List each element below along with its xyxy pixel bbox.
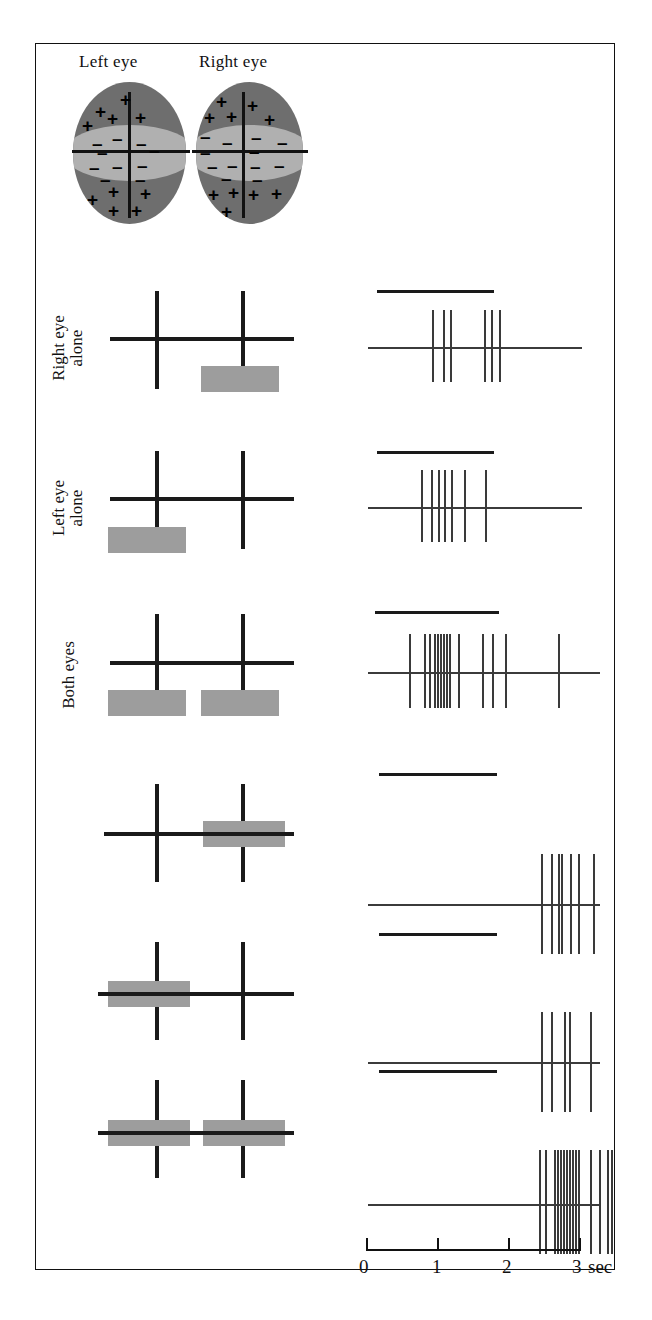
crosshair-horizontal: [110, 661, 294, 665]
spike-mark: [431, 470, 433, 542]
spike-mark: [437, 634, 439, 708]
spike-mark: [424, 634, 426, 708]
stimulus-bar-left: [108, 527, 186, 553]
axis-tick-1: [437, 1238, 439, 1251]
stimulus-duration-bar: [377, 290, 494, 293]
spike-mark: [575, 1150, 577, 1254]
spike-mark: [558, 854, 560, 954]
plus-icon: +: [247, 96, 258, 115]
minus-icon: –: [274, 156, 285, 175]
stimulus-duration-bar: [379, 1070, 497, 1073]
spike-mark: [491, 310, 493, 382]
axis-label-2: 2: [502, 1256, 512, 1278]
axis-tick-3: [579, 1238, 581, 1251]
spike-baseline: [368, 507, 582, 509]
spike-baseline: [368, 347, 582, 349]
spike-mark: [545, 1150, 547, 1254]
plus-icon: +: [271, 184, 282, 203]
row-label-right-eye-alone: Right eye alone: [50, 294, 87, 402]
minus-icon: –: [222, 133, 233, 152]
spike-mark: [558, 634, 560, 708]
spike-mark: [539, 1150, 541, 1254]
minus-icon: –: [149, 141, 160, 160]
figure-container: Left eye Right eye + + + + + + + + + + –…: [0, 0, 652, 1320]
stimulus-duration-bar: [375, 611, 499, 614]
plus-icon: +: [95, 102, 106, 121]
minus-icon: –: [207, 157, 218, 176]
spike-mark: [541, 1012, 543, 1112]
minus-icon: –: [221, 169, 232, 188]
spike-mark: [444, 470, 446, 542]
row-label-line1: Right eye: [50, 294, 68, 402]
figure-frame: Left eye Right eye + + + + + + + + + + –…: [35, 43, 615, 1270]
spike-baseline: [368, 904, 600, 906]
spike-mark: [443, 310, 445, 382]
spike-mark: [590, 1150, 592, 1254]
spike-mark: [551, 1012, 553, 1112]
minus-icon: –: [135, 170, 146, 189]
spike-mark: [566, 1150, 568, 1254]
spike-mark: [409, 634, 411, 708]
plus-icon: +: [108, 201, 119, 220]
spike-mark: [578, 854, 580, 954]
stimulus-duration-bar: [377, 451, 494, 454]
spike-mark: [505, 634, 507, 708]
row-label-both-eyes: Both eyes: [60, 621, 78, 729]
row-label-line2: alone: [68, 294, 86, 402]
spike-mark: [590, 1012, 592, 1112]
stimulus-bar-left: [108, 690, 186, 716]
plus-icon: +: [87, 190, 98, 209]
spike-mark: [449, 634, 451, 708]
spike-mark: [484, 310, 486, 382]
row-label-line2: alone: [68, 454, 86, 562]
axis-baseline: [366, 1249, 580, 1251]
minus-icon: –: [100, 170, 111, 189]
spike-mark: [464, 470, 466, 542]
spike-mark: [607, 1150, 609, 1254]
spike-mark: [485, 470, 487, 542]
spike-mark: [432, 310, 434, 382]
axis-tick-0: [366, 1238, 368, 1251]
spike-mark: [434, 634, 436, 708]
spike-mark: [451, 470, 453, 542]
axis-tick-2: [508, 1238, 510, 1251]
plus-icon: +: [204, 108, 215, 127]
right-eye-vertical-axis: [242, 92, 245, 218]
spike-mark: [429, 634, 431, 708]
spike-mark: [564, 1012, 566, 1112]
spike-mark: [599, 1150, 601, 1254]
stimulus-bar-right: [201, 690, 279, 716]
plus-icon: +: [107, 109, 118, 128]
axis-label-3: 3: [572, 1256, 582, 1278]
stimulus-bar-right: [201, 366, 279, 392]
spike-mark: [563, 1150, 565, 1254]
spike-mark: [611, 1150, 613, 1254]
spike-mark: [569, 1012, 571, 1112]
spike-mark: [499, 310, 501, 382]
minus-icon: –: [252, 170, 263, 189]
plus-icon: +: [208, 185, 219, 204]
spike-mark: [446, 634, 448, 708]
spike-mark: [440, 634, 442, 708]
left-eye-horizontal-axis: [72, 150, 190, 153]
plus-icon: +: [264, 110, 275, 129]
plus-icon: +: [120, 90, 131, 109]
plus-icon: +: [131, 201, 142, 220]
spike-mark: [458, 634, 460, 708]
minus-icon: –: [277, 133, 288, 152]
spike-mark: [561, 854, 563, 954]
spike-mark: [421, 470, 423, 542]
spike-baseline: [368, 672, 600, 674]
row-label-left-eye-alone: Left eye alone: [50, 454, 87, 562]
crosshair-horizontal: [104, 832, 294, 836]
plus-icon: +: [226, 107, 237, 126]
axis-unit-label: sec: [588, 1256, 612, 1278]
spike-mark: [450, 310, 452, 382]
axis-label-0: 0: [359, 1256, 369, 1278]
spike-mark: [572, 1150, 574, 1254]
minus-icon: –: [89, 158, 100, 177]
spike-mark: [569, 1150, 571, 1254]
spike-mark: [560, 1150, 562, 1254]
spike-mark: [557, 1150, 559, 1254]
plus-icon: +: [221, 202, 232, 221]
